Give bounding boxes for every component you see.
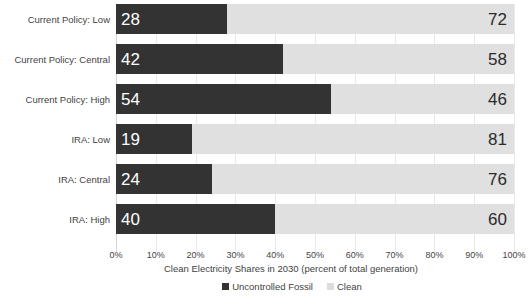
x-tick-80%: 80%	[425, 250, 443, 260]
legend-item-clean[interactable]: Clean	[327, 281, 362, 292]
x-tick-70%: 70%	[386, 250, 404, 260]
x-tick-100%: 100%	[502, 250, 525, 260]
category-label-ira-low: IRA: Low	[0, 124, 110, 154]
bar-segment-clean: 60	[275, 204, 514, 234]
category-label-current-policy-central: Current Policy: Central	[0, 44, 110, 74]
chart-legend: Uncontrolled FossilClean	[0, 281, 532, 292]
bar-row: 7624	[116, 164, 514, 194]
bar-segment-uncontrolled-fossil: 42	[116, 44, 283, 74]
bar-row: 8119	[116, 124, 514, 154]
bar-value-label-clean: 72	[488, 11, 514, 28]
bar-value-label-fossil: 42	[116, 51, 140, 68]
legend-label: Uncontrolled Fossil	[232, 281, 313, 292]
bar-segment-clean: 46	[331, 84, 514, 114]
bar-value-label-fossil: 19	[116, 131, 140, 148]
category-label-current-policy-high: Current Policy: High	[0, 84, 110, 114]
bar-row: 5842	[116, 44, 514, 74]
bar-value-label-fossil: 54	[116, 91, 140, 108]
legend-label: Clean	[337, 281, 362, 292]
bar-segment-clean: 58	[283, 44, 514, 74]
bar-value-label-fossil: 40	[116, 211, 140, 228]
bar-row: 7228	[116, 4, 514, 34]
bar-value-label-clean: 58	[488, 51, 514, 68]
bar-segment-clean: 81	[192, 124, 514, 154]
x-tick-0%: 0%	[109, 250, 122, 260]
x-axis-title: Clean Electricity Shares in 2030 (percen…	[0, 263, 532, 274]
bar-segment-clean: 72	[227, 4, 514, 34]
bar-value-label-clean: 46	[488, 91, 514, 108]
x-tick-50%: 50%	[306, 250, 324, 260]
x-tick-10%: 10%	[147, 250, 165, 260]
bar-segment-uncontrolled-fossil: 54	[116, 84, 331, 114]
x-axis-tick-labels: 0%10%20%30%40%50%60%70%80%90%100%	[116, 250, 514, 264]
x-tick-30%: 30%	[226, 250, 244, 260]
plot-area: 722858424654811976246040	[116, 4, 514, 252]
x-tick-20%: 20%	[187, 250, 205, 260]
stacked-bar-chart: 722858424654811976246040 Current Policy:…	[0, 0, 532, 307]
bar-segment-uncontrolled-fossil: 28	[116, 4, 227, 34]
bar-segment-uncontrolled-fossil: 24	[116, 164, 212, 194]
bar-value-label-clean: 81	[488, 131, 514, 148]
bar-segment-uncontrolled-fossil: 40	[116, 204, 275, 234]
bar-value-label-clean: 60	[488, 211, 514, 228]
bar-value-label-clean: 76	[488, 171, 514, 188]
x-tick-90%: 90%	[465, 250, 483, 260]
category-label-ira-central: IRA: Central	[0, 164, 110, 194]
legend-swatch-icon	[222, 283, 229, 290]
x-tick-40%: 40%	[266, 250, 284, 260]
gridline-100%	[514, 4, 515, 252]
bar-segment-clean: 76	[212, 164, 514, 194]
legend-swatch-icon	[327, 283, 334, 290]
bar-value-label-fossil: 24	[116, 171, 140, 188]
bar-segment-uncontrolled-fossil: 19	[116, 124, 192, 154]
category-label-current-policy-low: Current Policy: Low	[0, 4, 110, 34]
x-tick-60%: 60%	[346, 250, 364, 260]
bar-value-label-fossil: 28	[116, 11, 140, 28]
bar-row: 4654	[116, 84, 514, 114]
bar-row: 6040	[116, 204, 514, 234]
legend-item-uncontrolled-fossil[interactable]: Uncontrolled Fossil	[222, 281, 313, 292]
category-label-ira-high: IRA: High	[0, 204, 110, 234]
